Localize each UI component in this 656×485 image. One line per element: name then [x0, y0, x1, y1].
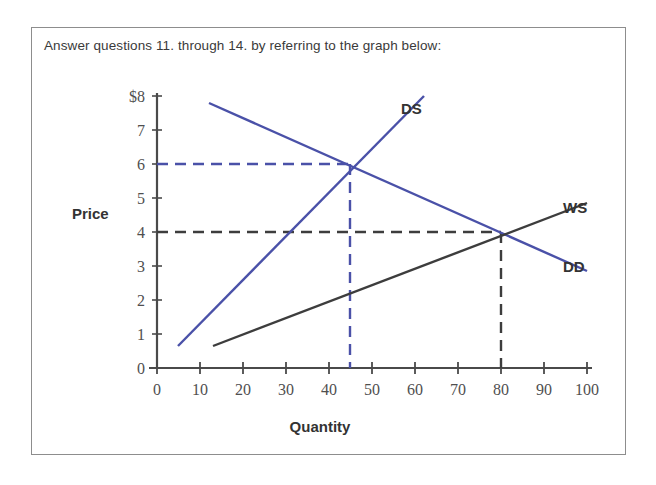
question-prompt: Answer questions 11. through 14. by refe… [44, 38, 441, 53]
worksheet-panel: Answer questions 11. through 14. by refe… [31, 27, 626, 455]
